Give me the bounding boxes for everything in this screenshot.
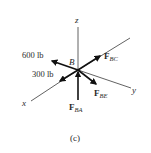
force-300lb-label: 300 lb	[32, 69, 54, 79]
force-fbc-label: FBC	[104, 51, 118, 62]
force-fbe-sub: BE	[100, 92, 108, 99]
x-axis-label: x	[21, 98, 26, 108]
point-b-marker	[77, 69, 79, 71]
force-fba-sub: BA	[75, 106, 83, 113]
coordinate-axes	[31, 27, 131, 101]
y-axis-label: y	[131, 85, 136, 95]
force-fbe-arrow	[78, 70, 96, 84]
force-300lb-arrow	[60, 70, 78, 81]
force-vectors	[52, 56, 100, 100]
force-fbe-label: FBE	[94, 88, 107, 99]
free-body-diagram: z y x B 600 lb 300 lb FBC FBE FBA (c)	[0, 0, 151, 153]
force-fba-label: FBA	[69, 102, 82, 113]
z-axis-label: z	[74, 15, 79, 25]
force-fbc-arrow	[78, 56, 100, 70]
force-fbc-sub: BC	[110, 55, 119, 62]
y-axis	[78, 70, 131, 88]
force-600lb-label: 600 lb	[22, 50, 44, 60]
figure-caption: (c)	[70, 133, 80, 143]
point-b-label: B	[69, 57, 75, 67]
